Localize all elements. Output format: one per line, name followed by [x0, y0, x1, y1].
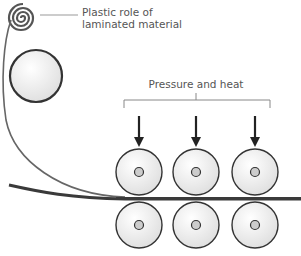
down-arrow-icon: [191, 116, 201, 147]
roll-label-line1: Plastic role of: [82, 6, 153, 18]
down-arrow-icon: [134, 116, 144, 147]
material-strip: [3, 20, 125, 197]
pressure-label: Pressure and heat: [149, 78, 244, 90]
bottom-roller: [173, 202, 219, 248]
spiral-roll-icon: [9, 4, 33, 30]
lamination-diagram: Plastic role of laminated material Press…: [0, 0, 301, 256]
idler-roller: [10, 50, 62, 102]
bottom-roller: [232, 202, 278, 248]
top-roller: [116, 149, 162, 195]
top-roller: [173, 149, 219, 195]
bottom-roller: [116, 202, 162, 248]
roll-label-line2: laminated material: [82, 18, 182, 30]
pressure-bracket: [124, 93, 270, 108]
down-arrow-icon: [250, 116, 260, 147]
pressure-arrows: [134, 116, 260, 147]
top-roller: [232, 149, 278, 195]
